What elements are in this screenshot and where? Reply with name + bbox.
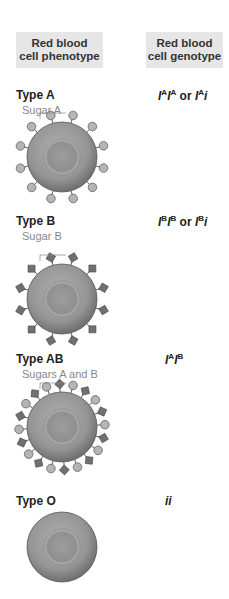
type-b-label: Type B	[16, 214, 55, 228]
type-o-red-blood-cell-icon	[0, 492, 125, 599]
type-b-genotype: IBIB or IBi	[158, 214, 207, 229]
type-ab-label: Type AB	[16, 352, 63, 366]
type-ab-genotype: IAIB	[165, 352, 183, 367]
type-ab-red-blood-cell-icon	[0, 372, 125, 482]
type-a-genotype: IAIA or IAi	[158, 88, 207, 103]
type-a-label: Type A	[16, 88, 55, 102]
type-a-red-blood-cell-icon	[0, 102, 125, 212]
phenotype-header-line1: Red blood	[31, 37, 87, 49]
phenotype-header-line2: cell phenotype	[19, 50, 100, 62]
genotype-header-line1: Red blood	[156, 37, 212, 49]
type-o-genotype: ii	[165, 494, 172, 508]
type-b-red-blood-cell-icon	[0, 244, 125, 354]
genotype-header: Red bloodcell genotype	[146, 32, 223, 68]
genotype-header-line2: cell genotype	[148, 50, 222, 62]
type-b-sugar-label: Sugar B	[22, 230, 62, 242]
phenotype-header: Red bloodcell phenotype	[16, 32, 103, 68]
